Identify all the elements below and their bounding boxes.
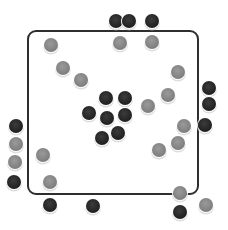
dark-dot <box>198 118 212 132</box>
dark-dot <box>99 91 113 105</box>
dark-dot <box>118 91 132 105</box>
grey-dot <box>56 61 70 75</box>
grey-dot <box>173 186 187 200</box>
scatter-scene <box>0 0 228 230</box>
dark-dot <box>145 14 159 28</box>
grey-dot <box>171 65 185 79</box>
grey-dot <box>141 99 155 113</box>
dark-dot <box>43 198 57 212</box>
grey-dot <box>9 137 23 151</box>
dark-dot <box>82 106 96 120</box>
grey-dot <box>171 136 185 150</box>
grey-dot <box>199 198 213 212</box>
grey-dot <box>36 148 50 162</box>
grey-dot <box>44 38 58 52</box>
grey-dot <box>145 35 159 49</box>
dark-dot <box>173 205 187 219</box>
grey-dot <box>113 36 127 50</box>
dark-dot <box>122 14 136 28</box>
grey-dot <box>74 73 88 87</box>
dark-dot <box>202 81 216 95</box>
grey-dot <box>161 88 175 102</box>
dark-dot <box>86 199 100 213</box>
dark-dot <box>202 97 216 111</box>
dark-dot <box>100 111 114 125</box>
dark-dot <box>7 175 21 189</box>
grey-dot <box>43 175 57 189</box>
dark-dot <box>109 14 123 28</box>
rounded-boundary-frame <box>27 30 199 195</box>
dark-dot <box>95 131 109 145</box>
grey-dot <box>8 155 22 169</box>
dark-dot <box>9 119 23 133</box>
dark-dot <box>118 108 132 122</box>
dark-dot <box>111 126 125 140</box>
grey-dot <box>177 119 191 133</box>
grey-dot <box>152 143 166 157</box>
